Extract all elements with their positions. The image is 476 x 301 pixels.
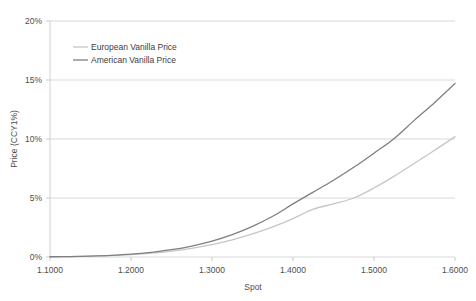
y-tick-label-15: 15% — [25, 75, 42, 85]
x-tick-labels: 1.1000 1.2000 1.3000 1.4000 1.5000 1.600… — [37, 265, 468, 275]
y-tick-label-10: 10% — [25, 134, 42, 144]
x-tick-label-4: 1.4000 — [280, 265, 306, 275]
y-tick-label-0: 0% — [30, 252, 43, 262]
x-tick-label-6: 1.6000 — [442, 265, 468, 275]
legend-label-european: European Vanilla Price — [91, 42, 177, 52]
x-tick-label-5: 1.5000 — [361, 265, 387, 275]
x-tick-label-1: 1.1000 — [37, 265, 63, 275]
y-tick-label-20: 20% — [25, 16, 42, 26]
x-axis-title: Spot — [244, 282, 262, 292]
chart-canvas: 20% 15% 10% 5% 0% 1.1000 1.2000 1.3000 1… — [0, 0, 476, 301]
y-tick-labels: 20% 15% 10% 5% 0% — [25, 16, 42, 262]
y-axis-title: Price (CCY1%) — [9, 110, 19, 168]
x-tick-label-2: 1.2000 — [118, 265, 144, 275]
y-tick-label-5: 5% — [30, 193, 43, 203]
legend-label-american: American Vanilla Price — [91, 55, 176, 65]
x-tick-label-3: 1.3000 — [199, 265, 225, 275]
y-axis-ticks — [46, 21, 50, 257]
chart-container: 20% 15% 10% 5% 0% 1.1000 1.2000 1.3000 1… — [0, 0, 476, 301]
x-axis-ticks — [50, 257, 455, 261]
